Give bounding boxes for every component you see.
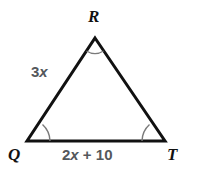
side-QT-variable: x (70, 146, 78, 163)
side-QT-constant: 10 (96, 146, 113, 163)
angle-arc-Q (43, 125, 51, 142)
side-QT-operator: + (83, 146, 92, 163)
vertex-label-Q: Q (8, 146, 20, 163)
vertex-label-R: R (88, 8, 99, 25)
angle-arc-R (87, 51, 104, 53)
angle-arc-T (142, 125, 150, 142)
side-QR-variable: x (39, 63, 47, 80)
side-label-QR: 3x (31, 64, 48, 79)
geometry-figure: R Q T 3x 2x + 10 (0, 0, 197, 173)
vertex-label-T: T (167, 146, 177, 163)
side-label-QT: 2x + 10 (62, 147, 112, 162)
